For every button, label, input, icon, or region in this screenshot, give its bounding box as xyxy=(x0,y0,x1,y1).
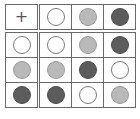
circle-icon xyxy=(47,61,65,79)
grid-cell xyxy=(71,82,104,108)
header-cell xyxy=(39,4,72,30)
grid-cell xyxy=(71,32,104,58)
corner-cell: + xyxy=(5,4,38,30)
header-cell xyxy=(71,4,104,30)
circle-icon xyxy=(111,61,129,79)
circle-icon xyxy=(111,8,129,26)
grid-row xyxy=(6,33,138,58)
grid-row xyxy=(6,83,138,108)
header-row: + xyxy=(6,5,138,30)
circle-icon xyxy=(79,8,97,26)
plus-icon: + xyxy=(15,9,28,25)
circle-icon xyxy=(13,61,31,79)
grid-cell xyxy=(39,57,72,83)
grid-cell xyxy=(39,32,72,58)
circle-icon xyxy=(79,86,97,104)
circle-icon xyxy=(47,86,65,104)
grid-cell xyxy=(5,82,38,108)
circle-icon xyxy=(79,36,97,54)
grid-cell xyxy=(39,82,72,108)
grid-cell xyxy=(5,57,38,83)
grid-cell xyxy=(103,32,136,58)
circle-icon xyxy=(111,86,129,104)
grid-row xyxy=(6,58,138,83)
circle-icon xyxy=(111,36,129,54)
circle-icon xyxy=(47,8,65,26)
circle-icon xyxy=(13,36,31,54)
grid-cell xyxy=(71,57,104,83)
grid-cell xyxy=(5,32,38,58)
grid-cell xyxy=(103,82,136,108)
circle-icon xyxy=(79,61,97,79)
header-cell xyxy=(103,4,136,30)
circle-icon xyxy=(47,36,65,54)
grid-cell xyxy=(103,57,136,83)
circle-icon xyxy=(13,86,31,104)
circle-grid-board: + xyxy=(6,5,138,108)
